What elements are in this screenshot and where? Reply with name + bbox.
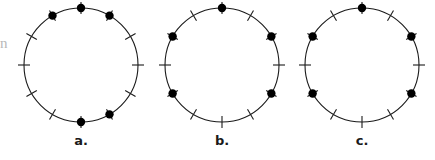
point-marker-11 (48, 11, 56, 19)
circle-outline (165, 8, 279, 122)
tick-mark-10 (26, 34, 36, 40)
point-marker-8 (168, 89, 176, 97)
circle-panel-b (159, 2, 285, 128)
point-marker-10 (308, 32, 316, 40)
point-marker-12 (77, 4, 85, 12)
point-marker-5 (105, 110, 113, 118)
tick-mark-8 (26, 91, 36, 97)
tick-mark-1 (248, 10, 254, 20)
tick-mark-5 (388, 109, 394, 119)
point-marker-10 (168, 32, 176, 40)
circle-panel-a (18, 2, 144, 128)
panel-label-c: c. (342, 133, 382, 148)
point-marker-1 (105, 11, 113, 19)
point-marker-4 (407, 89, 415, 97)
tick-mark-11 (331, 10, 337, 20)
tick-mark-4 (125, 91, 135, 97)
point-marker-8 (308, 89, 316, 97)
tick-mark-7 (191, 109, 197, 119)
point-marker-12 (218, 4, 226, 12)
tick-mark-7 (50, 109, 56, 119)
point-marker-12 (358, 4, 366, 12)
point-marker-2 (407, 32, 415, 40)
tick-mark-11 (191, 10, 197, 20)
point-marker-6 (77, 118, 85, 126)
tick-mark-5 (248, 109, 254, 119)
tick-mark-7 (331, 109, 337, 119)
circle-panel-c (299, 2, 425, 128)
panel-label-a: a. (61, 133, 101, 148)
point-marker-2 (267, 32, 275, 40)
figure-root: n a. b. c. (0, 0, 435, 160)
circle-outline (24, 8, 138, 122)
circle-outline (305, 8, 419, 122)
tick-mark-1 (388, 10, 394, 20)
point-marker-4 (267, 89, 275, 97)
tick-mark-2 (125, 34, 135, 40)
panel-label-b: b. (202, 133, 242, 148)
